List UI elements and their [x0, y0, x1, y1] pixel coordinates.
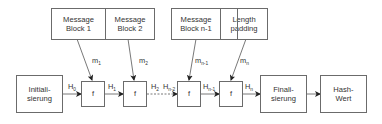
compression-function-n-minus-1: f	[177, 81, 201, 107]
message-block-1: Message Block 1	[51, 8, 106, 40]
label-hn: Hn	[245, 83, 253, 94]
hash-construction-diagram: Message Block 1 Message Block 2 Message …	[0, 0, 382, 124]
compression-function-2: f	[123, 81, 147, 107]
initialization-box: Initiali- sierung	[16, 75, 63, 113]
message-block-2: Message Block 2	[105, 8, 155, 40]
label-m1: m1	[92, 57, 101, 68]
label-hn1: Hn-1	[203, 83, 215, 94]
label-mn1: mn-1	[195, 57, 208, 68]
label-m2: m2	[139, 57, 148, 68]
compression-function-n: f	[219, 81, 243, 107]
label-mn: mn	[240, 57, 249, 68]
compression-function-1: f	[81, 81, 105, 107]
message-block-n-minus-1: Message Block n-1	[171, 8, 221, 40]
label-h0: H0	[68, 83, 76, 94]
label-h1: H1	[108, 83, 116, 94]
hash-value-box: Hash- Wert	[320, 75, 367, 113]
length-padding-block: Length padding	[220, 8, 268, 40]
finalization-box: Finali- sierung	[260, 75, 307, 113]
arrow-m1	[77, 39, 92, 80]
label-hn2: Hn-2	[163, 83, 175, 94]
padding-divider-line	[237, 8, 238, 40]
label-h2: H2	[151, 83, 159, 94]
arrow-m2	[128, 39, 134, 80]
